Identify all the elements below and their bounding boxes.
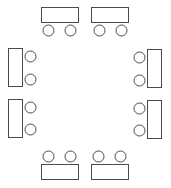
chair xyxy=(115,151,126,162)
chair xyxy=(134,103,145,114)
table-group-bottom-left xyxy=(42,151,79,180)
table xyxy=(148,50,162,88)
table xyxy=(9,100,23,138)
table-group-right-lower xyxy=(134,101,162,139)
table xyxy=(9,49,23,87)
chair xyxy=(94,25,105,36)
chair xyxy=(25,102,36,113)
chair xyxy=(134,75,145,86)
chair xyxy=(65,25,76,36)
chair xyxy=(93,151,104,162)
table xyxy=(148,101,162,139)
table-group-left-lower xyxy=(9,100,37,138)
table-group-top-left xyxy=(42,8,79,37)
chair xyxy=(25,124,36,135)
chair xyxy=(134,125,145,136)
table-group-right-upper xyxy=(134,50,162,88)
seating-diagram xyxy=(0,0,171,188)
table xyxy=(92,8,129,23)
chair xyxy=(116,25,127,36)
table xyxy=(92,165,129,180)
chair xyxy=(43,25,54,36)
table-group-left-upper xyxy=(9,49,37,87)
table-group-top-right xyxy=(92,8,129,37)
table-group-bottom-right xyxy=(92,151,129,180)
chair xyxy=(25,51,36,62)
table xyxy=(42,8,79,23)
chair xyxy=(25,74,36,85)
chair xyxy=(43,151,54,162)
chair xyxy=(65,151,76,162)
table xyxy=(42,165,79,180)
chair xyxy=(134,52,145,63)
